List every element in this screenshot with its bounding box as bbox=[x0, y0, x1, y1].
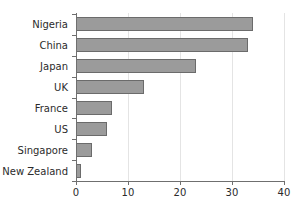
bar-us bbox=[76, 122, 107, 136]
category-label-france: France bbox=[35, 102, 68, 113]
category-label-nigeria: Nigeria bbox=[32, 19, 68, 30]
x-tick bbox=[284, 181, 285, 185]
bar-japan bbox=[76, 59, 196, 73]
category-label-uk: UK bbox=[54, 82, 68, 93]
y-tick bbox=[72, 118, 76, 119]
bar-france bbox=[76, 101, 112, 115]
category-label-singapore: Singapore bbox=[18, 144, 68, 155]
bar-uk bbox=[76, 80, 144, 94]
category-label-us: US bbox=[54, 123, 68, 134]
category-label-new-zealand: New Zealand bbox=[2, 165, 68, 176]
y-tick bbox=[72, 14, 76, 15]
y-tick bbox=[72, 77, 76, 78]
category-label-china: China bbox=[39, 40, 68, 51]
x-tick-label: 0 bbox=[73, 187, 80, 198]
y-axis-line bbox=[76, 13, 77, 182]
gridline bbox=[284, 13, 285, 181]
y-tick bbox=[72, 35, 76, 36]
bar-nigeria bbox=[76, 17, 253, 31]
x-tick bbox=[128, 181, 129, 185]
x-tick-label: 20 bbox=[173, 187, 186, 198]
category-label-japan: Japan bbox=[40, 61, 68, 72]
x-tick bbox=[232, 181, 233, 185]
bar-chart: 010203040 NigeriaChinaJapanUKFranceUSSin… bbox=[0, 0, 305, 204]
x-tick-label: 40 bbox=[277, 187, 290, 198]
bar-singapore bbox=[76, 143, 92, 157]
y-tick bbox=[72, 56, 76, 57]
y-axis-category-labels: NigeriaChinaJapanUKFranceUSSingaporeNew … bbox=[0, 0, 72, 204]
y-tick bbox=[72, 98, 76, 99]
bar-china bbox=[76, 38, 248, 52]
y-tick bbox=[72, 139, 76, 140]
x-tick-label: 10 bbox=[121, 187, 134, 198]
x-tick bbox=[180, 181, 181, 185]
x-tick bbox=[76, 181, 77, 185]
y-tick bbox=[72, 160, 76, 161]
x-tick-label: 30 bbox=[225, 187, 238, 198]
